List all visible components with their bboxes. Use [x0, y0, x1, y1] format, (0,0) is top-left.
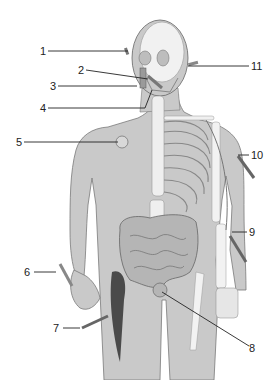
label-5: 5: [16, 136, 22, 148]
label-6: 6: [24, 266, 30, 278]
eye-socket-left: [139, 51, 151, 65]
clavicle: [164, 116, 214, 120]
forearm-bones: [216, 224, 226, 288]
label-9: 9: [249, 226, 255, 238]
hand-bones: [216, 288, 238, 318]
label-10: 10: [251, 149, 263, 161]
label-7: 7: [53, 322, 59, 334]
humerus: [212, 122, 220, 222]
label-2: 2: [78, 64, 84, 76]
syringe-6: [60, 264, 72, 286]
eye-socket-right: [157, 50, 169, 66]
label-8: 8: [249, 342, 255, 354]
body-figure: [60, 20, 254, 380]
label-4: 4: [40, 102, 46, 114]
ear-drop-device: [188, 61, 198, 66]
label-11: 11: [251, 60, 262, 72]
label-3: 3: [50, 80, 56, 92]
left-hand: [71, 270, 100, 309]
label-1: 1: [40, 45, 46, 57]
anatomy-diagram: [0, 0, 275, 380]
